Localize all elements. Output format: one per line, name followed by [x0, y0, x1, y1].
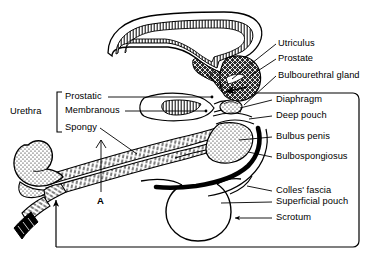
label-utriculus: Utriculus — [278, 38, 315, 48]
leader-spongy — [100, 128, 137, 154]
label-diaphragm: Diaphragm — [276, 94, 322, 104]
label-deep-pouch: Deep pouch — [276, 110, 327, 120]
bulbourethral-gland — [220, 100, 242, 114]
label-panel-a: A — [97, 196, 104, 206]
label-superficial-pouch: Superficial pouch — [276, 196, 348, 206]
anatomical-figure: Utriculus Prostate Bulbourethral gland D… — [0, 0, 371, 264]
bracket-shape — [57, 92, 62, 132]
label-bulbus-penis: Bulbus penis — [276, 131, 330, 141]
leader-bulbospongiosus — [248, 152, 272, 157]
label-scrotum: Scrotum — [276, 212, 311, 222]
label-colles-fascia: Colles' fascia — [276, 185, 331, 195]
leader-colles-fascia — [247, 186, 272, 191]
label-prostate: Prostate — [278, 53, 313, 63]
leader-deep-pouch — [249, 116, 272, 119]
label-spongy: Spongy — [65, 122, 97, 132]
label-membranous: Membranous — [65, 105, 120, 115]
glans-penis — [14, 141, 63, 186]
urethra-bracket — [57, 92, 62, 132]
label-prostatic: Prostatic — [65, 91, 102, 101]
leader-superficial-pouch — [221, 202, 272, 203]
prepuce — [14, 182, 66, 239]
label-bulbourethral-gland: Bulbourethral gland — [278, 70, 360, 80]
label-urethra-group: Urethra — [10, 106, 41, 116]
prostate-gland — [220, 56, 261, 101]
label-bulbospongiosus: Bulbospongiosus — [276, 151, 348, 161]
